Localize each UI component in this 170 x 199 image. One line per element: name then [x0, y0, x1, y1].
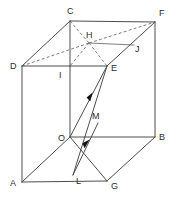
label-L: L: [76, 176, 81, 186]
thin-edges: [89, 43, 134, 45]
label-C: C: [67, 6, 74, 16]
edge-H-J: [89, 43, 134, 45]
label-E: E: [111, 63, 117, 73]
label-H: H: [86, 30, 93, 40]
label-F: F: [159, 8, 165, 18]
edge-A-O: [22, 137, 70, 182]
label-M: M: [92, 111, 100, 121]
label-D: D: [10, 61, 17, 71]
label-A: A: [10, 178, 16, 188]
edge-G-B: [107, 137, 155, 181]
edge-C-F: [70, 21, 155, 22]
label-I: I: [59, 70, 62, 80]
ray-L-to-E-arrowhead: [87, 93, 93, 102]
label-O: O: [58, 133, 65, 143]
edge-A-G: [22, 181, 107, 182]
edge-D-H: [22, 43, 89, 66]
label-J: J: [135, 44, 140, 54]
edge-C-D: [22, 21, 70, 66]
label-G: G: [111, 181, 118, 191]
geometry-diagram: C F H J D I E M O B L A G: [0, 0, 170, 199]
edge-H-I: [70, 43, 89, 66]
label-B: B: [159, 132, 165, 142]
edge-H-E: [89, 43, 107, 66]
ray-L-to-M: [73, 123, 98, 175]
geometry-canvas: C F H J D I E M O B L A G: [0, 0, 170, 199]
edge-H-F: [89, 22, 155, 43]
